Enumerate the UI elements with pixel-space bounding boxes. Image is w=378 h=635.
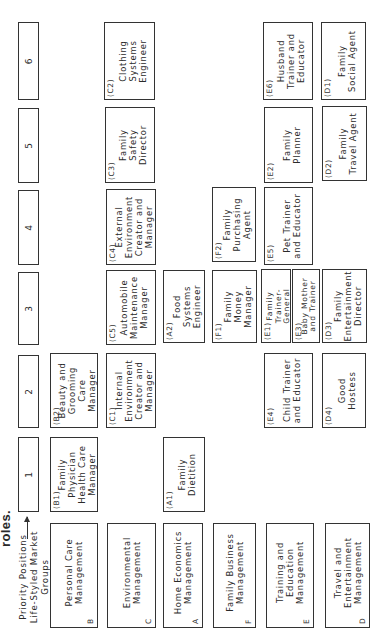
role-name: Child Trainer and Educator [265,354,312,427]
group-name: Family Business Management [214,524,255,627]
role-B2: (B2) Beauty and Grooming Care Manager [50,353,98,428]
role-name: External Environment Creator and Manager [107,190,155,264]
group-name: Personal Care Management [51,524,97,627]
role-name: Family Purchasing Agent [213,188,255,261]
role-name: Good Hostess [323,354,365,427]
role-C5: (C5) Automobile Maintenance Manager [106,270,156,345]
role-name: Baby Mother and Trainer [293,270,319,342]
group-name: Environmental Management [108,524,155,627]
priority-label: 2 [19,356,38,427]
role-C2: (C2) Clothing Systems Engineer [104,22,155,100]
role-D2: (D2) Family Travel Agent [322,106,367,181]
priority-3: 3 [18,272,39,345]
role-E2: (E2) Family Planner [264,107,313,183]
role-name: Family Dietition [164,438,204,511]
priority-label: 6 [19,23,38,99]
role-A1: (A1) Family Dietition [163,437,205,512]
priority-6: 6 [18,22,39,100]
priority-2: 2 [18,355,39,428]
role-E6: (E6) Husband Trainer and Educator [263,22,313,100]
role-name: Clothing Systems Engineer [105,23,154,99]
priority-label: 5 [19,109,38,182]
group-name: Travel and Entertainment Management [326,524,369,627]
role-D4: (D4) Good Hostess [322,353,366,428]
role-A2: (A2) Food Systems Engineer [163,270,205,343]
role-name: Family Planner [265,108,312,182]
role-name: Family Money Manager [213,271,256,342]
role-name: Family Social Agent [322,23,365,99]
group-B: B Personal Care Management [50,523,98,628]
role-E1: (E1) Family Trainer- General [261,269,291,343]
role-F1: (F1) Family Money Manager [212,270,257,343]
priority-label: 3 [19,273,38,344]
role-name: Beauty and Grooming Care Manager [51,354,97,427]
group-name: Home Economics Management [164,524,202,627]
group-D: D Travel and Entertainment Management [325,523,370,628]
axis-label: Priority Positions Life-Styled Market Gr… [18,521,51,633]
role-name: Automobile Maintenance Manager [107,271,155,344]
role-name: Family Entertainment Director [323,270,366,342]
group-C: C Environmental Management [107,523,156,628]
role-name: Family Trainer- General [262,270,290,342]
role-C4: (C4) External Environment Creator and Ma… [106,189,156,265]
role-C3: (C3) Family Safety Director [105,107,155,183]
role-D1: (D1) Family Social Agent [321,22,366,100]
diagram-title: roles. [0,510,13,547]
role-name: Husband Trainer and Educator [264,23,312,99]
role-name: Pet Trainer and Educator [265,188,312,264]
group-F: F Family Business Management [213,523,256,628]
role-name: Food Systems Engineer [164,271,204,342]
role-E5: (E5) Pet Trainer and Educator [264,187,313,265]
role-name: Internal Environment Creator and Manager [107,354,155,427]
role-name: Family Travel Agent [323,107,366,180]
priority-4: 4 [18,190,39,265]
role-matrix-diagram: roles. Priority Positions Life-Styled Ma… [0,0,378,635]
role-D3: (D3) Family Entertainment Director [322,269,367,343]
role-C1: (C1) Internal Environment Creator and Ma… [106,353,156,428]
priority-label: 4 [19,191,38,264]
role-F2: (F2) Family Purchasing Agent [212,187,256,262]
role-B1: (B1) Family Physician Health Care Manage… [50,437,98,512]
role-E3: (E3) Baby Mother and Trainer [292,269,320,343]
role-E4: (E4) Child Trainer and Educator [264,353,313,428]
group-name: Training and Education Management [267,524,313,627]
priority-1: 1 [18,437,39,512]
role-name: Family Physician Health Care Manager [51,438,97,511]
priority-5: 5 [18,108,39,183]
group-A: A Home Economics Management [163,523,203,628]
priority-arrow [27,517,28,539]
group-E: E Training and Education Management [266,523,314,628]
role-name: Family Safety Director [106,108,154,182]
priority-label: 1 [19,438,38,511]
